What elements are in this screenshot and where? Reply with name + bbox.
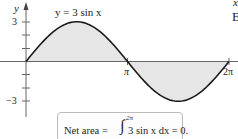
integral-upper-limit: 2π <box>126 115 133 122</box>
tick-label-pi: π <box>124 67 129 77</box>
corner-x-label: x <box>233 0 238 7</box>
tick-label-3: 3 <box>12 17 17 27</box>
corner-e-label: E <box>232 10 238 23</box>
function-label-text: y = 3 sin x <box>55 6 102 18</box>
tick-label-2pi-text: 2π <box>223 66 233 77</box>
tick-label-minus-3: −3 <box>6 96 17 106</box>
function-label: y = 3 sin x <box>55 7 102 17</box>
net-area-prefix: Net area = <box>64 125 108 136</box>
y-axis-label: y <box>14 3 19 13</box>
tick-label-2pi: 2π <box>223 67 233 77</box>
net-area-box: Net area = ∫ 2π 3 sin x dx = 0. <box>57 112 183 139</box>
y-axis-arrow-icon <box>24 2 29 10</box>
integrand: 3 sin x dx = 0. <box>128 125 188 136</box>
integral-sign: ∫ <box>120 118 124 134</box>
